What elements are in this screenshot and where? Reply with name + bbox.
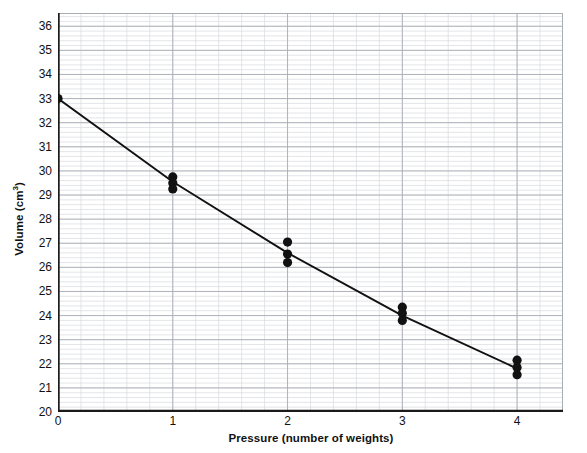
y-tick-label: 31 [28, 141, 52, 153]
y-tick-label: 21 [28, 382, 52, 394]
y-axis-title: Volume (cm3) [11, 139, 25, 299]
x-tick-label: 3 [387, 415, 417, 427]
y-tick-label: 33 [28, 93, 52, 105]
y-tick-label: 28 [28, 213, 52, 225]
data-point [283, 249, 292, 258]
data-point [512, 370, 521, 379]
x-tick-label: 1 [158, 415, 188, 427]
y-tick-label: 34 [28, 68, 52, 80]
y-tick-label: 35 [28, 44, 52, 56]
data-point [168, 184, 177, 193]
x-tick-label: 0 [43, 415, 73, 427]
plot-area [58, 13, 563, 412]
y-tick-label: 25 [28, 285, 52, 297]
y-axis-title-superscript: 3 [11, 186, 20, 191]
x-axis-title: Pressure (number of weights) [58, 432, 564, 444]
data-point [283, 237, 292, 246]
x-tick-label: 4 [502, 415, 532, 427]
y-tick-label: 29 [28, 189, 52, 201]
data-point [283, 258, 292, 267]
y-tick-label: 30 [28, 165, 52, 177]
y-tick-label: 24 [28, 310, 52, 322]
y-tick-label: 22 [28, 358, 52, 370]
y-tick-label: 32 [28, 117, 52, 129]
y-tick-label: 36 [28, 20, 52, 32]
y-tick-label: 27 [28, 237, 52, 249]
y-axis-tick-labels: 2021222324252627282930313233343536 [24, 0, 52, 453]
minor-gridlines [58, 13, 563, 412]
y-tick-label: 23 [28, 334, 52, 346]
plot-graphics [58, 13, 563, 412]
data-point [398, 316, 407, 325]
y-tick-label: 26 [28, 261, 52, 273]
x-tick-label: 2 [273, 415, 303, 427]
data-points [58, 94, 522, 379]
scatter-chart: Volume (cm3) 202122232425262728293031323… [0, 0, 587, 453]
